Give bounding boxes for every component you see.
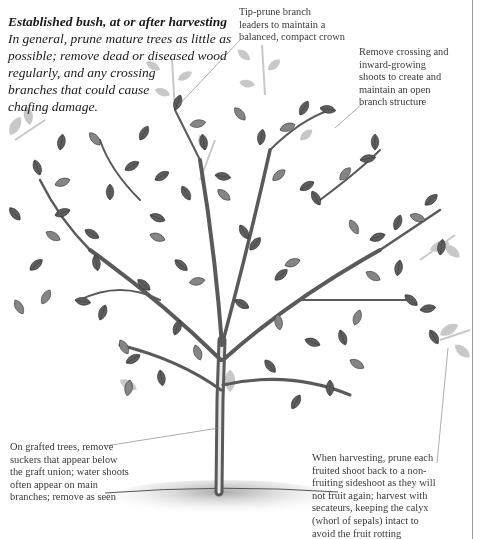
callout-line: leaders to maintain a [239,19,345,32]
callout-line: Remove crossing and [359,46,448,59]
intro-text: In general, prune mature trees as little… [8,30,268,115]
callout-line: branches; remove as seen [10,491,129,504]
callout-line: secateurs, keeping the calyx [312,502,436,515]
callout-line: not fruit again; harvest with [312,490,436,503]
callout-line: shoots to create and [359,71,448,84]
callout-line: often appear on main [10,479,129,492]
canopy-leaves [7,94,447,411]
leader-harvesting [437,348,448,463]
callout-line: fruiting sideshoot as they will [312,477,436,490]
callout-line: maintain an open [359,84,448,97]
callout-remove-crossing: Remove crossing and inward-growing shoot… [359,46,448,109]
callout-line: On grafted trees, remove [10,441,129,454]
callout-line: balanced, compact crown [239,31,345,44]
callout-line: (whorl of sepals) intact to [312,515,436,528]
leader-crossing [335,104,362,128]
intro-line: In general, prune mature trees as little… [8,30,268,47]
page-edge-divider [472,0,473,539]
intro-line: regularly, and any crossing [8,64,268,81]
intro-line: possible; remove dead or diseased wood [8,47,268,64]
callout-line: Tip-prune branch [239,6,345,19]
callout-line: branch structure [359,96,448,109]
callout-grafted-trees: On grafted trees, remove suckers that ap… [10,441,129,504]
section-heading: Established bush, at or after harvesting [8,14,268,30]
callout-tip-prune: Tip-prune branch leaders to maintain a b… [239,6,345,44]
callout-line: the graft union; water shoots [10,466,129,479]
callout-line: suckers that appear below [10,454,129,467]
callout-line: When harvesting, prune each [312,452,436,465]
callout-harvesting: When harvesting, prune each fruited shoo… [312,452,436,539]
intro-line: chafing damage. [8,98,268,115]
callout-line: avoid the fruit rotting [312,528,436,539]
intro-block: Established bush, at or after harvesting… [8,14,268,115]
intro-line: branches that could cause [8,81,268,98]
callout-line: fruited shoot back to a non- [312,465,436,478]
callout-line: inward-growing [359,59,448,72]
